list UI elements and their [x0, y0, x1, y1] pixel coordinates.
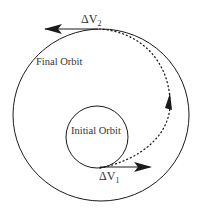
initial-orbit-circle — [66, 106, 128, 168]
final-orbit-label: Final Orbit — [36, 56, 82, 67]
initial-orbit-label: Initial Orbit — [71, 125, 121, 136]
transfer-orbit-path — [100, 29, 170, 168]
hohmann-transfer-diagram: ΔV2 Final Orbit Initial Orbit ΔV1 — [0, 0, 197, 212]
dv2-label: ΔV2 — [81, 12, 101, 28]
transfer-direction-arrowhead-icon — [165, 93, 172, 110]
dv1-label: ΔV1 — [99, 169, 119, 185]
